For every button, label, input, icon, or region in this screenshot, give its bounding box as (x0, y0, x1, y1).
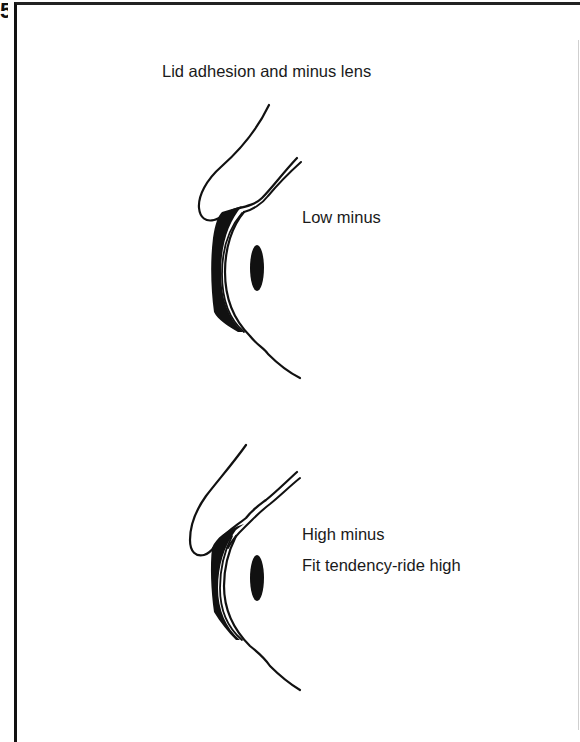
upper-eyelid-outline (190, 445, 297, 555)
cornea-contour (225, 212, 300, 378)
low-minus-pupil-lens (250, 245, 264, 291)
high-minus-eye-diagram (190, 445, 300, 690)
upper-eyelid-outline (199, 105, 297, 221)
high-minus-pupil-lens (250, 555, 264, 601)
low-minus-contact-lens (211, 206, 243, 332)
cornea-contour (224, 536, 300, 690)
lid-inner-edge (228, 478, 300, 548)
